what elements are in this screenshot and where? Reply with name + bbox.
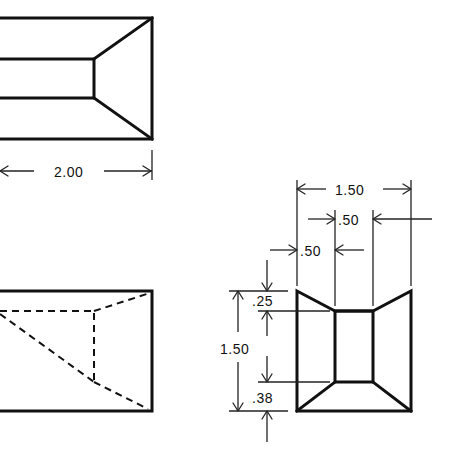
front-view-lower-right-slope bbox=[373, 382, 411, 411]
side-view bbox=[0, 291, 152, 411]
dim-label-2-00: 2.00 bbox=[54, 164, 83, 180]
hidden-line-upper-slope bbox=[94, 293, 150, 311]
dim-front-inner-width: .50 bbox=[308, 212, 432, 228]
dim-top-width: 2.00 bbox=[0, 150, 152, 180]
front-view-lower-left-slope bbox=[297, 382, 335, 411]
front-view-outline bbox=[297, 291, 411, 411]
hidden-line-lower-slope bbox=[94, 382, 148, 409]
front-view-inner-rect bbox=[335, 311, 373, 382]
dim-label-1-50-height: 1.50 bbox=[220, 341, 249, 357]
dim-label-25: .25 bbox=[252, 293, 273, 309]
dim-label-inner-50: .50 bbox=[338, 212, 359, 228]
dim-label-38: .38 bbox=[252, 390, 273, 406]
dim-label-1-50-width: 1.50 bbox=[335, 182, 364, 198]
top-view-inner-rect bbox=[0, 59, 94, 98]
dim-front-overall-height: 1.50 bbox=[220, 291, 249, 411]
dim-label-left-50: .50 bbox=[300, 243, 321, 259]
side-view-outline bbox=[0, 291, 152, 411]
dim-front-bottom-offset: .38 bbox=[252, 356, 273, 442]
technical-drawing: 2.00 1.50 .50 bbox=[0, 0, 452, 451]
top-view-upper-slope bbox=[94, 18, 152, 59]
top-view-outline bbox=[0, 18, 152, 139]
top-view-lower-slope bbox=[94, 98, 152, 139]
dim-front-overall-width: 1.50 bbox=[297, 182, 411, 198]
dim-front-left-offset: .50 bbox=[270, 243, 364, 259]
hidden-line-diagonal bbox=[0, 314, 94, 382]
dim-front-top-offset: .25 bbox=[252, 260, 273, 336]
front-view bbox=[297, 291, 411, 411]
top-view bbox=[0, 18, 152, 139]
